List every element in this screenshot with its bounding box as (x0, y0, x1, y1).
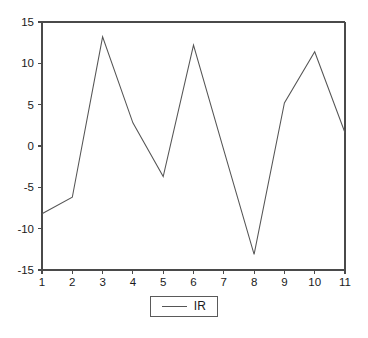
x-tick-label: 1 (39, 276, 45, 288)
x-tick-label: 3 (99, 276, 105, 288)
y-tick-label: -10 (17, 223, 34, 235)
x-tick-label: 7 (221, 276, 227, 288)
x-tick-label: 6 (190, 276, 196, 288)
x-axis (42, 270, 345, 274)
x-tick-label: 10 (308, 276, 321, 288)
legend-line-swatch-ir (162, 306, 187, 307)
y-tick-label: 5 (28, 99, 34, 111)
x-tick-label: 2 (69, 276, 75, 288)
y-tick-label: 15 (21, 16, 34, 28)
plot-area: 151050-5-10-15 1234567891011 (0, 0, 368, 290)
plot-svg: 151050-5-10-15 1234567891011 (0, 0, 368, 290)
x-tick-label: 9 (281, 276, 287, 288)
y-tick-label: -15 (17, 264, 34, 276)
y-axis-tick-labels: 151050-5-10-15 (17, 16, 34, 276)
data-series-group (42, 37, 345, 254)
x-tick-label: 4 (130, 276, 137, 288)
y-tick-label: 0 (28, 140, 34, 152)
legend-box: IR (150, 296, 218, 317)
y-axis (38, 22, 345, 270)
x-tick-label: 8 (251, 276, 257, 288)
legend: IR (0, 296, 368, 317)
y-tick-label: -5 (24, 181, 34, 193)
x-axis-tick-labels: 1234567891011 (39, 276, 351, 288)
x-tick-label: 11 (339, 276, 351, 288)
legend-label-ir: IR (194, 300, 206, 312)
series-line-ir (42, 37, 345, 254)
x-tick-label: 5 (160, 276, 166, 288)
y-tick-label: 10 (21, 57, 34, 69)
line-chart-figure: 151050-5-10-15 1234567891011 IR (0, 0, 368, 338)
